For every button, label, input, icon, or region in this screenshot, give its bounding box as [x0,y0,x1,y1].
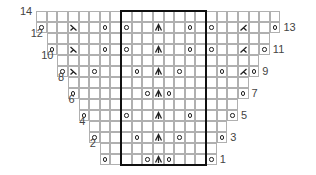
chart-cell [68,11,79,22]
chart-cell [100,132,111,143]
yarn-over-icon [270,22,281,33]
yarn-over-icon [206,22,217,33]
chart-cell [227,33,238,44]
chart-cell [57,33,68,44]
chart-cell [217,55,228,66]
chart-cell [79,44,90,55]
chart-cell [79,66,90,77]
yarn-over-icon [238,88,249,99]
chart-cell [227,55,238,66]
yarn-over-icon [249,66,260,77]
yarn-over-icon [100,44,111,55]
chart-cell [68,33,79,44]
row-number-label: 7 [252,88,258,99]
chart-cell [57,11,68,22]
chart-cell [227,99,238,110]
chart-cell [217,88,228,99]
left-decrease-icon [68,22,79,33]
chart-cell [79,77,90,88]
chart-cell [270,11,281,22]
chart-cell [206,11,217,22]
chart-cell [206,77,217,88]
chart-cell [217,22,228,33]
row-number-label: 2 [90,138,96,149]
yarn-over-icon [206,154,217,165]
chart-cell [217,33,228,44]
chart-cell [217,44,228,55]
row-number-label: 9 [262,66,268,77]
chart-cell [100,11,111,22]
chart-cell [259,22,270,33]
chart-cell [217,77,228,88]
repeat-box [120,10,207,166]
row-number-label: 1 [220,154,226,165]
chart-cell [206,66,217,77]
chart-cell [79,33,90,44]
chart-cell [68,55,79,66]
chart-cell [259,11,270,22]
yarn-over-icon [100,154,111,165]
chart-cell [89,22,100,33]
row-number-label: 12 [31,28,43,39]
chart-cell [217,110,228,121]
chart-cell [249,44,260,55]
chart-cell [238,11,249,22]
chart-cell [57,22,68,33]
chart-cell [227,22,238,33]
chart-cell [217,99,228,110]
row-number-label: 3 [230,132,236,143]
chart-cell [206,99,217,110]
chart-cell [57,44,68,55]
chart-cell [227,88,238,99]
yarn-over-icon [259,44,270,55]
row-number-label: 14 [20,6,32,17]
chart-cell [238,77,249,88]
chart-cell [206,121,217,132]
chart-cell [89,44,100,55]
chart-cell [100,110,111,121]
chart-cell [100,33,111,44]
chart-cell [68,77,79,88]
row-number-label: 8 [58,72,64,83]
chart-cell [249,55,260,66]
chart-cell [217,11,228,22]
row-number-label: 11 [273,44,284,55]
knitting-chart: 1234567891011121314 [0,0,316,175]
yarn-over-icon [206,44,217,55]
chart-cell [100,99,111,110]
chart-cell [238,55,249,66]
yarn-over-icon [217,66,228,77]
chart-cell [89,77,100,88]
chart-cell [79,11,90,22]
chart-cell [36,11,47,22]
chart-cell [100,66,111,77]
chart-cell [89,88,100,99]
left-decrease-icon [68,44,79,55]
chart-cell [249,33,260,44]
chart-cell [47,22,58,33]
chart-cell [238,33,249,44]
chart-cell [100,55,111,66]
chart-cell [79,55,90,66]
chart-cell [89,110,100,121]
chart-cell [79,22,90,33]
chart-cell [227,11,238,22]
chart-cell [206,33,217,44]
chart-cell [79,99,90,110]
chart-cell [206,132,217,143]
chart-cell [89,33,100,44]
chart-cell [79,88,90,99]
right-decrease-icon [238,44,249,55]
chart-cell [206,143,217,154]
chart-cell [227,77,238,88]
yarn-over-icon [89,66,100,77]
chart-cell [100,143,111,154]
chart-cell [57,55,68,66]
chart-cell [206,55,217,66]
chart-cell [47,11,58,22]
row-number-label: 10 [41,50,53,61]
row-number-label: 5 [241,110,247,121]
yarn-over-icon [100,22,111,33]
chart-cell [100,77,111,88]
chart-cell [259,33,270,44]
